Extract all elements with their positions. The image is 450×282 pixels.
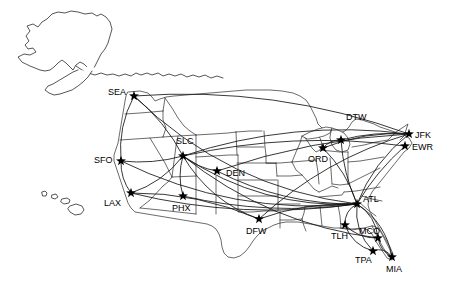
- hawaii-region: [42, 191, 84, 215]
- airport-code-label: PHX: [172, 203, 191, 213]
- hawaii-island-maui: [61, 198, 70, 204]
- airport-marker-sea[interactable]: SEA: [108, 87, 139, 100]
- hawaii-island-kauai: [42, 191, 47, 196]
- airport-code-label: TPA: [355, 255, 372, 265]
- airport-code-label: JFK: [415, 130, 431, 140]
- airport-code-label: SLC: [176, 136, 194, 146]
- airport-code-label: LAX: [104, 198, 121, 208]
- airport-code-label: DFW: [246, 226, 267, 236]
- airport-code-label: DTW: [346, 112, 367, 122]
- alaska-panhandle: [45, 70, 92, 95]
- airport-code-label: DEN: [226, 168, 245, 178]
- route-map-container: SEASFOLAXSLCPHXDENDFWORDDTWJFKEWRATLTLHM…: [0, 0, 450, 282]
- airport-code-label: EWR: [412, 142, 433, 152]
- airport-code-label: ATL: [363, 194, 379, 204]
- airport-code-label: SFO: [94, 155, 113, 165]
- airport-code-label: TLH: [331, 231, 348, 241]
- airport-marker-mco[interactable]: MCO: [359, 226, 383, 242]
- hawaii-island-oahu: [52, 194, 58, 199]
- alaska-region: [18, 11, 223, 95]
- airport-code-label: SEA: [108, 87, 126, 97]
- us-route-map: SEASFOLAXSLCPHXDENDFWORDDTWJFKEWRATLTLHM…: [0, 0, 450, 282]
- airport-code-label: ORD: [308, 154, 329, 164]
- hawaii-island-hawaii: [68, 204, 84, 215]
- airport-code-label: MCO: [359, 226, 380, 236]
- alaska-outline: [18, 11, 112, 71]
- airport-code-label: MIA: [386, 264, 402, 274]
- aleutian-chain: [76, 66, 223, 78]
